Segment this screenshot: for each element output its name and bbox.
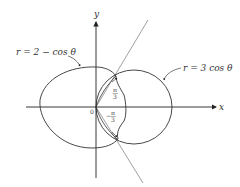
svg-text:π: π xyxy=(113,86,117,93)
origin-label: 0 xyxy=(90,108,94,115)
svg-text:3: 3 xyxy=(111,116,115,123)
svg-text:3: 3 xyxy=(113,93,117,100)
x-axis-label: x xyxy=(219,102,224,112)
circle-leader xyxy=(164,68,181,80)
ray-pi-over-3 xyxy=(96,20,148,107)
svg-text:π: π xyxy=(111,109,115,116)
limacon-leader xyxy=(68,56,80,66)
angle-label-pi-over-3: π 3 xyxy=(113,86,119,100)
y-axis-label: y xyxy=(93,9,100,19)
circle-label: r = 3 cos θ xyxy=(183,63,233,73)
ray-minus-pi-over-3 xyxy=(96,107,143,183)
angle-label-minus-pi-over-3: − π 3 xyxy=(106,109,116,123)
limacon-label: r = 2 − cos θ xyxy=(16,47,76,57)
polar-diagram: x y 0 π 3 − π 3 r = 2 − cos θ r = 3 cos … xyxy=(0,0,240,187)
